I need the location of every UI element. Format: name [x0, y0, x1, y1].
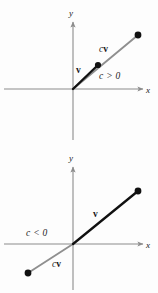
- diagram-positive-scalar: y x v cv c > 0: [0, 0, 158, 147]
- vector-cv-label: cv: [52, 259, 61, 269]
- condition-label-negative: c < 0: [26, 228, 48, 238]
- vector-scalar-multiplication-figure: y x v cv c > 0: [0, 0, 158, 293]
- vector-cv-line: [28, 244, 73, 273]
- vector-cv-endpoint-dot: [135, 32, 142, 39]
- vector-v-endpoint-dot: [135, 188, 142, 195]
- vector-cv-label-v: v: [103, 44, 108, 54]
- vector-cv-label: cv: [99, 44, 108, 54]
- x-axis-label: x: [145, 85, 150, 95]
- vector-v-endpoint-dot: [95, 62, 101, 68]
- vector-cv-endpoint-dot: [25, 270, 32, 277]
- vector-v-line: [73, 191, 138, 244]
- vector-cv-label-v: v: [56, 259, 61, 269]
- y-axis-label: y: [68, 8, 73, 18]
- panel-negative-scalar: y x v cv c < 0: [0, 147, 158, 293]
- panel-positive-scalar: y x v cv c > 0: [0, 0, 158, 147]
- vector-v-label: v: [76, 65, 81, 75]
- y-axis-label: y: [68, 153, 73, 163]
- condition-label-positive: c > 0: [99, 71, 121, 81]
- vector-v-label: v: [93, 209, 98, 219]
- diagram-negative-scalar: y x v cv c < 0: [0, 147, 158, 293]
- x-axis-label: x: [145, 240, 150, 250]
